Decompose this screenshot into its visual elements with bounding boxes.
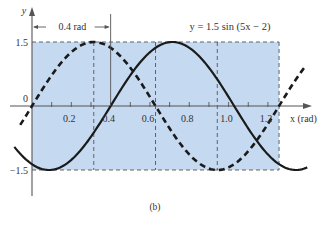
x-tick-label: 0.2 bbox=[63, 113, 76, 124]
y-axis-arrow-icon bbox=[29, 7, 35, 16]
x-axis-label: x (rad) bbox=[290, 113, 317, 125]
x-tick-label: 0.6 bbox=[142, 113, 155, 124]
y-axis-label: y bbox=[21, 5, 27, 16]
phase-shift-label: 0.4 rad bbox=[58, 21, 86, 32]
figure-caption: (b) bbox=[149, 202, 160, 213]
sine-chart: y x (rad) y = 1.5 sin (5x − 2) 0.4 rad (… bbox=[0, 0, 324, 225]
arrow-left-icon bbox=[33, 25, 38, 29]
y-tick-label: −1.5 bbox=[10, 165, 28, 176]
x-tick-label: 1.0 bbox=[220, 113, 233, 124]
y-tick-label: 0 bbox=[23, 93, 28, 104]
x-tick-label: 0.8 bbox=[181, 113, 194, 124]
arrow-right-icon bbox=[105, 25, 110, 29]
x-tick-label: 0.4 bbox=[102, 113, 115, 124]
y-tick-label: 1.5 bbox=[16, 37, 29, 48]
x-tick-label: 1.2 bbox=[260, 113, 273, 124]
x-axis-arrow-icon bbox=[303, 103, 312, 109]
equation-label: y = 1.5 sin (5x − 2) bbox=[190, 21, 271, 33]
